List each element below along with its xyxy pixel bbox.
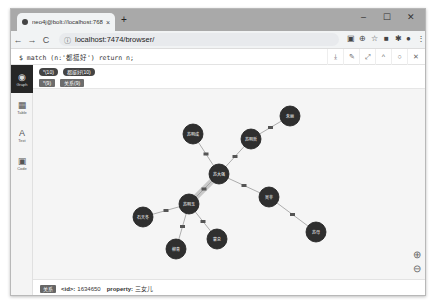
- download-icon[interactable]: ⤓: [327, 49, 343, 65]
- code-icon: ▣: [18, 156, 27, 166]
- pin-icon[interactable]: ✎: [343, 49, 359, 65]
- fullscreen-icon[interactable]: ⤢: [359, 49, 375, 65]
- sidebar-item-graph[interactable]: ◉ Graph: [11, 65, 33, 93]
- maximize-button[interactable]: ☐: [383, 12, 391, 22]
- sidebar-item-table[interactable]: ▦ Table: [11, 93, 33, 121]
- table-icon: ▦: [18, 100, 27, 110]
- rerun-icon[interactable]: ○: [391, 49, 407, 65]
- profile-icon[interactable]: ●: [406, 34, 411, 43]
- browser-window: neo4j@bolt://localhost:7687 × + – ☐ ✕ ← …: [10, 8, 426, 296]
- rel-type-all[interactable]: *(9): [39, 79, 55, 87]
- graph-canvas[interactable]: 苏明成苏明哲朱丽苏大强苏明玉石天冬柳青蒙总吴非苏母 ⊕ ⊖: [33, 89, 426, 279]
- node-label: 石天冬: [137, 214, 149, 220]
- url-text: localhost:7474/browser/: [75, 35, 154, 44]
- node-label: 蒙总: [213, 236, 221, 242]
- rel-type-badge[interactable]: 关系: [40, 285, 56, 293]
- forward-button[interactable]: →: [25, 35, 39, 45]
- graph-legend: *(10) 都挺好(10) *(9) 关系(9): [33, 65, 426, 89]
- edge-label: [268, 126, 273, 129]
- edge-label: [204, 153, 209, 156]
- zoom-out-icon[interactable]: ⊖: [411, 263, 423, 274]
- menu-icon[interactable]: ⋮: [417, 34, 425, 43]
- sidebar-item-label: Table: [17, 110, 27, 115]
- property-value: 三女儿: [135, 284, 153, 293]
- puzzle-icon[interactable]: ✱: [395, 34, 402, 43]
- extension-icon[interactable]: ■: [384, 34, 389, 43]
- node-label-all[interactable]: *(10): [39, 68, 58, 76]
- node-label-legend: *(10) 都挺好(10): [39, 68, 95, 76]
- new-tab-button[interactable]: +: [121, 14, 127, 25]
- node-label: 苏明哲: [245, 136, 257, 142]
- graph-svg[interactable]: 苏明成苏明哲朱丽苏大强苏明玉石天冬柳青蒙总吴非苏母: [33, 89, 426, 279]
- url-input[interactable]: ⓘ localhost:7474/browser/: [59, 33, 339, 46]
- query-text: $ match (n:'都挺好') return n;: [19, 52, 134, 62]
- graph-icon: ◉: [18, 72, 26, 82]
- edge-label: [180, 225, 185, 228]
- node-label: 苏母: [312, 229, 320, 235]
- minimize-button[interactable]: –: [361, 12, 366, 22]
- edge-label: [202, 188, 207, 191]
- node-label: 苏明玉: [183, 201, 195, 207]
- node-label: 苏大强: [213, 171, 225, 177]
- sidebar-item-code[interactable]: ▣ Code: [11, 149, 33, 177]
- sidebar-item-label: Code: [17, 166, 27, 171]
- property-key: property:: [107, 286, 133, 292]
- close-frame-icon[interactable]: ✕: [407, 49, 423, 65]
- zoom-in-icon[interactable]: ⊕: [411, 249, 423, 260]
- reload-button[interactable]: C: [39, 35, 53, 45]
- zoom-page-icon[interactable]: ⊕: [359, 34, 366, 43]
- sidebar-item-label: Graph: [16, 82, 27, 87]
- sidebar-item-label: Text: [18, 138, 25, 143]
- text-icon: A: [19, 128, 25, 138]
- collapse-icon[interactable]: ^: [375, 49, 391, 65]
- close-window-button[interactable]: ✕: [407, 12, 415, 22]
- inspector-bar: 关系 <id>: 1634650 property: 三女儿: [33, 279, 426, 296]
- info-icon[interactable]: ⓘ: [64, 35, 71, 45]
- node-label: 朱丽: [286, 113, 294, 119]
- id-value: 1634650: [77, 286, 100, 292]
- translate-icon[interactable]: ▣: [347, 34, 355, 43]
- view-sidebar: ◉ Graph ▦ Table A Text ▣ Code: [11, 65, 33, 296]
- node-label-dutinghao[interactable]: 都挺好(10): [63, 68, 95, 76]
- sidebar-item-text[interactable]: A Text: [11, 121, 33, 149]
- rel-type-legend: *(9) 关系(9): [39, 79, 84, 87]
- title-bar: neo4j@bolt://localhost:7687 × + – ☐ ✕: [11, 9, 425, 31]
- node-label: 苏明成: [187, 131, 199, 137]
- edge-label: [201, 220, 206, 223]
- browser-tab[interactable]: neo4j@bolt://localhost:7687 ×: [17, 13, 115, 31]
- node-label: 吴非: [265, 194, 273, 200]
- node-label: 柳青: [172, 246, 180, 252]
- back-button[interactable]: ←: [11, 35, 25, 45]
- tab-close-icon[interactable]: ×: [106, 19, 110, 26]
- rel-type-guanxi[interactable]: 关系(9): [60, 79, 84, 87]
- edge-label: [233, 155, 238, 158]
- edge-label: [164, 209, 169, 212]
- neo4j-favicon-icon: [22, 19, 28, 25]
- id-key: <id>:: [61, 286, 75, 292]
- bookmark-star-icon[interactable]: ☆: [371, 34, 378, 43]
- edge-label: [290, 213, 295, 216]
- edge-label: [242, 184, 247, 187]
- tab-title: neo4j@bolt://localhost:7687: [32, 19, 103, 25]
